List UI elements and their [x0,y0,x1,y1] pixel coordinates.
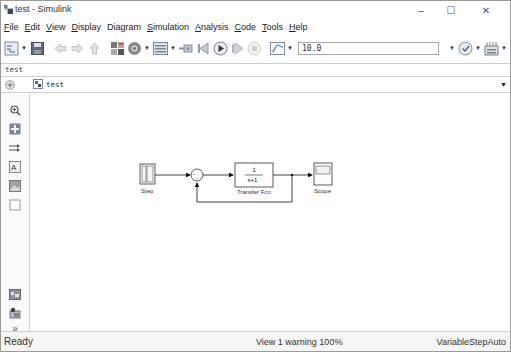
model-explorer-dropdown[interactable]: ▼ [170,41,176,56]
model-config-dropdown[interactable]: ▼ [144,41,150,56]
data-inspector-icon[interactable] [270,41,285,56]
fit-to-view-icon[interactable] [9,123,21,135]
connect-icon[interactable] [179,41,194,56]
menu-bar: File Edit View Display Diagram Simulatio… [1,19,510,34]
scope-block[interactable]: Scope [314,163,332,194]
step-back-icon[interactable] [196,41,211,56]
menu-help[interactable]: Help [289,22,308,32]
back-icon[interactable] [53,41,68,56]
forward-icon[interactable] [70,41,85,56]
run-icon[interactable] [213,41,228,56]
minimize-icon: – [418,5,424,16]
close-icon: ✕ [482,5,490,16]
transfer-fcn-block[interactable]: 1 s+1 Transfer Fcn [235,163,273,195]
area-icon[interactable] [9,199,21,211]
build-icon[interactable] [484,41,499,56]
step-label: Step [141,188,154,194]
build-dropdown[interactable]: ▼ [501,41,507,56]
save-icon[interactable] [30,41,45,56]
zoom-icon[interactable] [9,104,21,116]
new-model-icon[interactable] [4,41,19,56]
menu-edit[interactable]: Edit [25,22,41,32]
breadcrumb[interactable]: test [33,79,64,89]
status-view-warning[interactable]: View 1 warning 100% [256,337,342,347]
toolbar: ▼ ▼ ▼ [1,35,510,61]
model-tab-strip: test [1,63,510,76]
menu-simulation[interactable]: Simulation [147,22,189,32]
transfer-fcn-label: Transfer Fcn [237,189,271,195]
step-forward-icon[interactable] [230,41,245,56]
stop-time-dropdown[interactable]: ▼ [449,41,455,56]
window-title: test - Simulink [15,4,72,14]
title-bar: test - Simulink – ☐ ✕ [1,1,510,19]
menu-file[interactable]: File [4,22,19,32]
menu-code[interactable]: Code [235,22,257,32]
stop-icon[interactable] [247,41,262,56]
explorer-bar: test ▼ [1,76,510,93]
model-icon [33,79,43,89]
stop-time-input[interactable]: 10.0 [298,42,439,55]
menu-analysis[interactable]: Analysis [195,22,229,32]
library-browser-icon[interactable] [110,41,125,56]
model-advisor-icon[interactable] [458,41,473,56]
maximize-button[interactable]: ☐ [436,1,466,19]
menu-view[interactable]: View [46,22,65,32]
data-inspector-dropdown[interactable]: ▼ [287,41,293,56]
menu-diagram[interactable]: Diagram [107,22,141,32]
model-config-icon[interactable] [127,41,142,56]
block-diagram: Step + − 1 s+1 Transfer Fcn [31,94,510,331]
up-icon[interactable] [87,41,102,56]
breadcrumb-dropdown-icon[interactable]: ▼ [500,81,507,88]
sum-block[interactable]: + − [191,169,203,181]
status-state: Ready [4,336,33,347]
left-palette: A » [1,94,30,331]
scope-label: Scope [314,188,332,194]
menu-display[interactable]: Display [71,22,101,32]
model-browser-icon[interactable] [9,288,21,300]
step-block[interactable]: Step [140,164,155,194]
minimize-button[interactable]: – [406,1,436,19]
simulink-logo-icon [4,5,13,14]
diagram-canvas[interactable]: Step + − 1 s+1 Transfer Fcn [31,94,510,331]
report-icon[interactable] [9,307,21,319]
tf-denominator: s+1 [248,177,259,183]
model-tab[interactable]: test [5,65,23,74]
status-solver[interactable]: VariableStepAuto [437,337,506,347]
model-explorer-icon[interactable] [153,41,168,56]
status-bar: Ready View 1 warning 100% VariableStepAu… [1,331,510,351]
annotation-icon[interactable]: A [9,161,21,173]
model-advisor-dropdown[interactable]: ▼ [475,41,481,56]
menu-tools[interactable]: Tools [262,22,283,32]
breadcrumb-model[interactable]: test [46,80,64,89]
simulink-window: test - Simulink – ☐ ✕ File Edit View Dis… [0,0,511,352]
new-model-dropdown[interactable]: ▼ [21,41,27,56]
svg-text:A: A [11,163,17,172]
close-button[interactable]: ✕ [471,1,501,19]
image-icon[interactable] [9,180,21,192]
hide-explorer-icon[interactable] [5,80,15,90]
signal-lines-icon[interactable] [9,142,21,154]
maximize-icon: ☐ [447,5,456,16]
